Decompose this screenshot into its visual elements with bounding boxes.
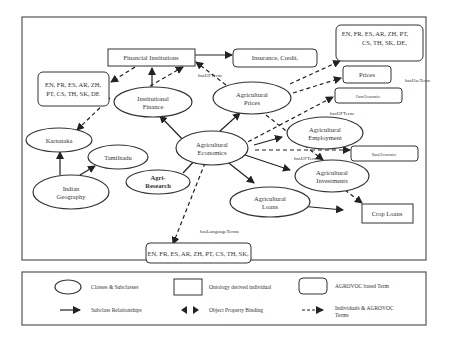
label-agricultural-loans-1: Agricultural [254,195,286,202]
label-institutional-finance-1: Institutional [137,95,169,102]
label-farm-economics: Farm Economics [356,95,380,99]
label-agri-research-1: Agri- [151,174,166,181]
legend-classes-label: Classes & Subclasses [91,284,138,290]
node-institutional-finance [114,87,192,117]
label-agricultural-prices-1: Agricultural [236,91,268,98]
node-agricultural-prices [213,82,291,114]
label-lang-top-left-1: EN, FR, ES, AR, ZH, [45,81,102,88]
edge-label-has-use-term: hasUseTerm [405,78,430,83]
legend-agrovoc-term-label: AGROVOC based Term [335,283,390,289]
label-crop-loans: Crop Loans [372,210,403,217]
legend-individuals-label-2: Terms [335,312,349,318]
label-prices: Prices [359,71,375,78]
label-agricultural-employment-2: Employment [308,134,342,141]
edge-label-has-uf-term-3: hasUFTerm [294,156,318,161]
node-indian-geography [33,175,109,209]
label-agricultural-loans-2: Loans [262,203,278,210]
label-lang-top-right-2: CS, TH, SK, DE, [362,39,407,46]
label-lang-bottom: EN, FR, ES, AR, ZH, PT, CS, TH, SK, [147,250,248,257]
node-agricultural-economics [176,131,248,165]
legend-subclass-label: Subclass Relationships [91,307,142,313]
label-indian-geography-1: Indian [63,185,80,192]
label-agri-research-2: Research [145,182,171,189]
label-indian-geography-2: Geography [57,193,87,200]
ontology-diagram: Financial Institutions Insurance, Credit… [0,0,462,345]
label-lang-top-right-1: EN, FR, ES, AR, ZH, PT, [342,30,409,37]
legend-frame [22,272,426,325]
edge-label-has-uf-term-1: hasUFTerm [198,73,222,78]
node-agricultural-employment [287,117,363,149]
label-rural-economics: Rural Economics [372,153,397,157]
node-lang-top-left [38,72,109,106]
label-karnataka: Karnataka [46,137,73,144]
label-financial-institutions: Financial Institutions [123,54,179,61]
label-agricultural-economics-1: Agricultural [196,141,228,148]
edge-label-has-language-terms: hasLanguageTerms [200,229,239,234]
node-agricultural-investments [295,160,369,192]
label-agricultural-investments-2: Investments [316,177,348,184]
label-insurance-credit: Insurance, Credit, [252,54,299,61]
legend-individuals-label-1: Individuals & AGROVOC [335,305,394,311]
label-agricultural-prices-2: Prices [244,99,260,106]
label-agricultural-economics-2: Economics [198,149,227,156]
label-tamilnadu: Tamilnadu [104,154,132,161]
legend-rect-icon [174,279,202,295]
label-institutional-finance-2: Finance [143,103,164,110]
label-agricultural-investments-1: Agricultural [316,169,348,176]
legend-ellipse-icon [55,280,81,294]
legend-rounded-rect-icon [299,278,327,294]
label-agricultural-employment-1: Agricultural [309,126,341,133]
legend-object-property-label: Object Property Binding [209,307,263,313]
legend-double-arrow-icon [181,306,199,314]
legend-ontology-individual-label: Ontology derived individual [209,284,272,290]
label-lang-top-left-2: PT, CS, TH, SK, DE [46,90,100,97]
edge-label-has-uf-term-2: hasUFTerm [330,111,354,116]
node-agricultural-loans [230,187,310,217]
